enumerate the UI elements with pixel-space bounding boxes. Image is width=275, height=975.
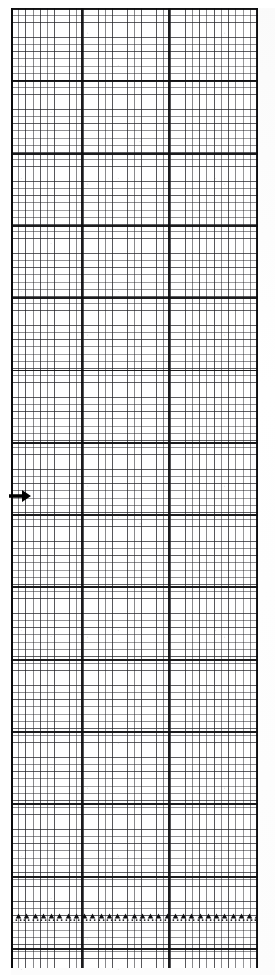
grid-major-vertical-rule-3: [256, 8, 258, 968]
arrow-right-icon: [9, 487, 33, 505]
triangle-marker-icon: [147, 913, 154, 922]
triangle-marker-icon: [40, 913, 47, 922]
triangle-marker-icon: [221, 913, 228, 922]
triangle-marker-icon: [164, 913, 171, 922]
triangle-marker-icon: [172, 913, 179, 922]
triangle-marker-icon: [131, 913, 138, 922]
event-marker-row: [11, 908, 258, 922]
grid-major-vertical-rule-2: [168, 8, 170, 968]
triangle-marker-icon: [205, 913, 212, 922]
grid-major-horizontal-lines: [11, 8, 258, 968]
triangle-marker-icon: [213, 913, 220, 922]
triangle-marker-icon: [155, 913, 162, 922]
triangle-marker-icon: [122, 913, 129, 922]
triangle-marker-icon: [81, 913, 88, 922]
triangle-marker-icon: [15, 913, 22, 922]
triangle-marker-icon: [23, 913, 30, 922]
triangle-marker-icon: [48, 913, 55, 922]
triangle-marker-icon: [188, 913, 195, 922]
triangle-marker-icon: [254, 913, 258, 922]
triangle-marker-icon: [73, 913, 80, 922]
triangle-marker-icon: [197, 913, 204, 922]
grid-major-vertical-rule-1: [81, 8, 83, 968]
triangle-marker-icon: [56, 913, 63, 922]
triangle-marker-icon: [246, 913, 253, 922]
triangle-marker-icon: [98, 913, 105, 922]
grid-plot-area: [11, 8, 258, 968]
triangle-marker-icon: [230, 913, 237, 922]
triangle-marker-icon: [106, 913, 113, 922]
triangle-marker-icon: [114, 913, 121, 922]
triangle-marker-icon: [180, 913, 187, 922]
scan-canvas: [0, 0, 275, 975]
triangle-marker-icon: [139, 913, 146, 922]
triangle-marker-icon: [89, 913, 96, 922]
triangle-marker-icon: [65, 913, 72, 922]
triangle-marker-icon: [32, 913, 39, 922]
triangle-marker-icon: [238, 913, 245, 922]
top-margin: [0, 0, 275, 8]
